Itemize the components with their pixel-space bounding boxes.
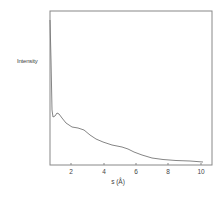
x-axis-label: s (Å)	[111, 178, 125, 185]
intensity-curve	[50, 20, 203, 162]
x-tick-label: 8	[166, 168, 170, 175]
x-tick-label: 2	[69, 168, 73, 175]
x-tick-label: 6	[134, 168, 138, 175]
plot-area	[0, 0, 222, 198]
x-tick-label: 10	[197, 168, 204, 175]
x-tick-label: 4	[102, 168, 106, 175]
plot-frame	[50, 11, 212, 165]
